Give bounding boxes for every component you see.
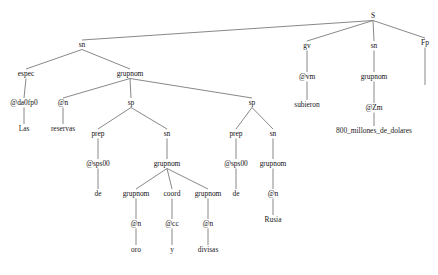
tree-node-grupnom1: grupnom xyxy=(117,69,144,78)
tree-node-importe: 800_millones_de_dolares xyxy=(336,126,412,135)
tree-node-grupnom4: grupnom xyxy=(123,189,150,198)
syntax-tree-diagram: SsngvsnFpespecgrupnom@vmgrupnom@da0fp0@n… xyxy=(0,0,438,275)
tree-node-grupnom2: grupnom xyxy=(154,159,181,168)
tree-node-prep2: prep xyxy=(229,129,242,138)
tree-node-de1: de xyxy=(95,189,103,198)
tree-node-n_rusia: @n xyxy=(268,189,279,198)
tree-node-sn1: sn xyxy=(79,40,86,49)
tree-edge-grupnom1-to-sp1 xyxy=(130,79,131,99)
tree-node-sps00_1: @sps00 xyxy=(86,159,110,168)
tree-node-n_oro: @n xyxy=(131,219,142,228)
tree-node-divisas: divisas xyxy=(198,245,219,254)
tree-edge-grupnom2-to-coord xyxy=(167,169,172,190)
tree-node-n_reservas: @n xyxy=(58,98,69,107)
tree-node-da0fp0: @da0fp0 xyxy=(10,98,38,107)
tree-edge-s-to-sn1 xyxy=(82,21,373,41)
tree-node-sn3: sn xyxy=(270,129,277,138)
tree-edge-grupnom1-to-sp2 xyxy=(130,79,252,99)
tree-node-coord: coord xyxy=(164,189,181,198)
tree-node-s: S xyxy=(371,11,375,20)
tree-node-grupnom_obj: grupnom xyxy=(361,72,388,81)
tree-node-layer: SsngvsnFpespecgrupnom@vmgrupnom@da0fp0@n… xyxy=(10,11,429,254)
tree-node-rusia: Rusia xyxy=(265,215,283,224)
tree-node-grupnom5: grupnom xyxy=(195,189,222,198)
tree-edge-grupnom1-to-n_reservas xyxy=(63,79,130,99)
tree-node-prep1: prep xyxy=(91,129,104,138)
tree-node-sn2: sn xyxy=(164,129,171,138)
tree-edge-sn1-to-grupnom1 xyxy=(82,50,130,70)
tree-edge-s-to-gv xyxy=(307,21,373,42)
tree-node-fp: Fp xyxy=(421,38,429,47)
tree-edge-s-to-sn_obj xyxy=(373,21,374,42)
tree-edge-sp1-to-sn2 xyxy=(131,108,167,130)
tree-node-n_divisas: @n xyxy=(203,219,214,228)
tree-node-reservas: reservas xyxy=(51,124,75,133)
tree-node-gv: gv xyxy=(303,41,311,50)
tree-edge-sp1-to-prep1 xyxy=(98,108,131,130)
tree-node-y: y xyxy=(170,245,174,254)
tree-edge-grupnom2-to-grupnom5 xyxy=(167,169,208,190)
tree-node-de2: de xyxy=(233,189,241,198)
tree-edge-sn1-to-espec xyxy=(26,50,82,70)
tree-edge-s-to-fp xyxy=(373,21,425,39)
tree-edge-espec-to-da0fp0 xyxy=(24,79,26,99)
tree-edge-grupnom2-to-grupnom4 xyxy=(136,169,167,190)
tree-node-zm: @Zm xyxy=(365,103,382,112)
tree-node-sn_obj: sn xyxy=(371,41,378,50)
tree-node-oro: oro xyxy=(131,245,141,254)
tree-node-sp1: sp xyxy=(128,98,135,107)
tree-node-espec: espec xyxy=(18,69,35,78)
tree-node-las: Las xyxy=(19,124,30,133)
tree-node-subieron: subieron xyxy=(294,100,320,109)
tree-node-sp2: sp xyxy=(249,98,256,107)
tree-node-sps00_2: @sps00 xyxy=(224,159,248,168)
tree-edge-sp2-to-sn3 xyxy=(252,108,273,130)
tree-edge-sp2-to-prep2 xyxy=(236,108,252,130)
tree-node-vm: @vm xyxy=(299,72,316,81)
tree-node-cc_y: @cc xyxy=(165,219,179,228)
tree-node-grupnom3: grupnom xyxy=(260,159,287,168)
